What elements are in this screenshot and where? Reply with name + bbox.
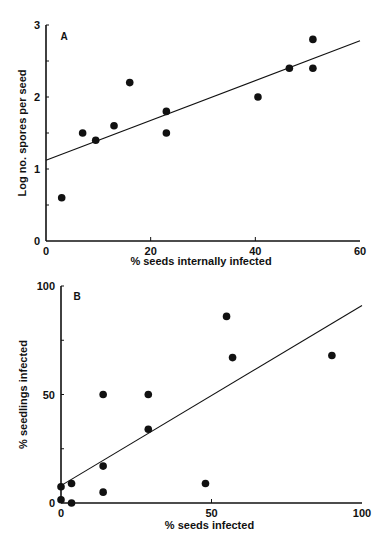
data-point [99, 391, 107, 399]
data-point [110, 122, 118, 130]
data-point [57, 483, 65, 491]
y-tick-label: 100 [37, 280, 55, 292]
data-point [144, 425, 152, 433]
y-tick-label: 0 [34, 235, 40, 247]
chart-panel-b: 050100050100% seeds infected% seedlings … [17, 280, 371, 531]
x-axis-title: % seeds infected [165, 519, 254, 531]
data-point [202, 480, 210, 488]
data-point [99, 462, 107, 470]
data-point [58, 194, 66, 202]
panel-label: A [60, 31, 67, 42]
panel-label: B [73, 291, 80, 302]
x-tick-label: 50 [205, 507, 217, 519]
y-tick-label: 0 [49, 497, 55, 509]
y-tick-label: 3 [34, 19, 40, 31]
figure: 01230204060% seeds internally infectedLo… [0, 0, 388, 548]
x-tick-label: 100 [353, 507, 371, 519]
data-point [309, 64, 317, 72]
data-point [68, 480, 76, 488]
data-point [286, 64, 294, 72]
y-tick-label: 1 [34, 163, 40, 175]
data-point [229, 354, 237, 362]
data-point [144, 391, 152, 399]
data-point [163, 129, 171, 137]
y-axis-title: % seedlings infected [17, 340, 29, 449]
data-point [328, 352, 336, 360]
x-tick-label: 0 [43, 245, 49, 257]
x-axis-title: % seeds internally infected [130, 255, 271, 267]
data-point [254, 93, 262, 101]
data-point [163, 108, 171, 116]
y-tick-label: 50 [43, 389, 55, 401]
chart-panel-a: 01230204060% seeds internally infectedLo… [16, 19, 366, 267]
data-point [79, 129, 87, 137]
data-point [126, 79, 134, 87]
data-point [57, 496, 65, 504]
data-point [92, 136, 100, 144]
x-tick-label: 0 [58, 507, 64, 519]
data-point [309, 36, 317, 44]
data-point [223, 313, 231, 321]
data-point [68, 499, 76, 507]
y-axis-title: Log no. spores per seed [16, 69, 28, 196]
data-point [99, 488, 107, 496]
x-tick-label: 60 [354, 245, 366, 257]
y-tick-label: 2 [34, 91, 40, 103]
